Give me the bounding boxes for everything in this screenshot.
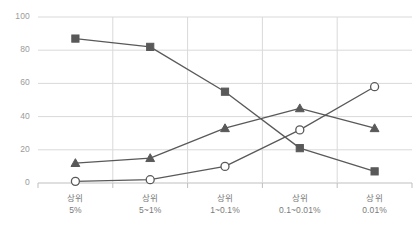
data-point-circle-2 xyxy=(221,162,229,170)
x-category-top-1: 상위 xyxy=(113,192,188,204)
data-point-circle-1 xyxy=(146,176,154,184)
data-point-square-3 xyxy=(296,145,303,152)
y-tick-label-0: 0 xyxy=(4,178,30,187)
x-category-top-2: 상위 xyxy=(188,192,263,204)
x-category-top-4: 상위 xyxy=(337,192,412,204)
data-point-square-4 xyxy=(371,168,378,175)
x-category-label-0: 상위5% xyxy=(38,192,113,217)
x-category-top-3: 상위 xyxy=(262,192,337,204)
data-point-triangle-1 xyxy=(146,154,155,162)
axis-tick-group xyxy=(38,183,412,188)
x-category-label-4: 상위0.01% xyxy=(337,192,412,217)
y-tick-label-100: 100 xyxy=(4,12,30,21)
x-category-bottom-3: 0.1~0.01% xyxy=(262,204,337,216)
x-category-bottom-2: 1~0.1% xyxy=(188,204,263,216)
series-square xyxy=(72,35,378,175)
gridline-group xyxy=(38,17,412,183)
series-line-square xyxy=(75,39,374,172)
x-category-top-0: 상위 xyxy=(38,192,113,204)
data-point-square-2 xyxy=(221,88,228,95)
x-category-label-3: 상위0.1~0.01% xyxy=(262,192,337,217)
x-category-bottom-0: 5% xyxy=(38,204,113,216)
x-category-bottom-1: 5~1% xyxy=(113,204,188,216)
series-circle xyxy=(71,83,378,186)
y-tick-label-80: 80 xyxy=(4,45,30,54)
data-point-triangle-3 xyxy=(295,104,304,112)
y-tick-label-40: 40 xyxy=(4,112,30,121)
x-category-label-2: 상위1~0.1% xyxy=(188,192,263,217)
data-point-circle-4 xyxy=(371,83,379,91)
data-point-circle-3 xyxy=(296,126,304,134)
data-point-circle-0 xyxy=(71,177,79,185)
y-tick-label-20: 20 xyxy=(4,145,30,154)
series-triangle xyxy=(71,104,379,167)
chart-container: 020406080100 상위5%상위5~1%상위1~0.1%상위0.1~0.0… xyxy=(0,0,420,235)
y-tick-label-60: 60 xyxy=(4,78,30,87)
series-layer xyxy=(71,35,379,185)
x-category-bottom-4: 0.01% xyxy=(337,204,412,216)
x-category-label-1: 상위5~1% xyxy=(113,192,188,217)
data-point-square-0 xyxy=(72,35,79,42)
data-point-square-1 xyxy=(147,43,154,50)
